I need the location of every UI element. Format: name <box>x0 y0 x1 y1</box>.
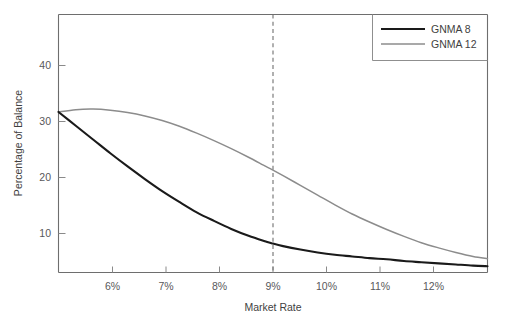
line-chart: 40 30 20 10 6% 7% 8% 9% 10% 11% 12% Mark… <box>0 0 505 330</box>
chart-container: 40 30 20 10 6% 7% 8% 9% 10% 11% 12% Mark… <box>0 0 505 330</box>
x-tick-label-10: 10% <box>316 280 337 292</box>
legend: GNMA 8 GNMA 12 <box>373 15 488 61</box>
x-tick-label-7: 7% <box>158 280 173 292</box>
y-tick-label-10: 10 <box>39 227 51 239</box>
y-axis-tick-labels: 40 30 20 10 <box>39 59 51 239</box>
y-tick-label-30: 30 <box>39 115 51 127</box>
x-tick-label-12: 12% <box>423 280 444 292</box>
x-axis-title: Market Rate <box>244 301 301 313</box>
legend-label-gnma-8: GNMA 8 <box>431 23 471 35</box>
x-tick-label-8: 8% <box>212 280 227 292</box>
x-tick-label-11: 11% <box>370 280 390 292</box>
y-axis-ticks <box>59 66 66 234</box>
y-tick-label-40: 40 <box>39 59 51 71</box>
legend-label-gnma-12: GNMA 12 <box>431 38 477 50</box>
y-axis-title: Percentage of Balance <box>12 90 24 196</box>
x-tick-label-9: 9% <box>265 280 280 292</box>
x-tick-label-6: 6% <box>105 280 120 292</box>
y-tick-label-20: 20 <box>39 171 51 183</box>
x-axis-tick-labels: 6% 7% 8% 9% 10% 11% 12% <box>105 280 444 292</box>
